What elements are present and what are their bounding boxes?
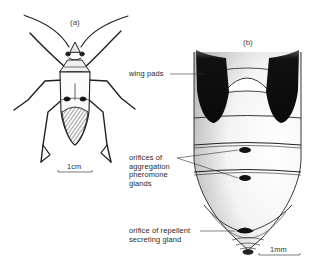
scale-label-1mm: 1mm <box>270 245 287 254</box>
label-aggregation-glands: orifices of aggregation pheromone glands <box>129 154 170 188</box>
label-wing-pads: wing pads <box>129 70 164 79</box>
panel-label-a: (a) <box>70 18 80 27</box>
aggregation-gland-orifice-1 <box>239 147 251 153</box>
aggregation-gland-orifice-2 <box>239 175 251 181</box>
panel-label-b: (b) <box>243 38 253 47</box>
label-line: secreting gland <box>129 236 190 245</box>
scale-label-1cm: 1cm <box>67 162 81 171</box>
label-repellent-gland: orifice of repellent secreting gland <box>129 227 190 244</box>
label-line: glands <box>129 180 170 189</box>
bug-drawing <box>14 15 135 162</box>
figure: (a) (b) 1cm 1mm wing pads orifices of ag… <box>0 0 313 263</box>
bug-illustration <box>0 0 313 263</box>
